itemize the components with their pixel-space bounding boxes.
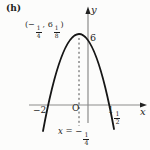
y-intercept-label: 6 <box>90 33 96 43</box>
axis-of-symmetry-label: x = −14 <box>58 127 90 147</box>
vertex-close: ) <box>61 20 64 29</box>
y-axis-arrowhead <box>85 7 90 15</box>
x-intercept-right-label: 112 <box>108 106 121 126</box>
vertex-mid: , 6 <box>43 20 53 29</box>
vertex-fraction-2: 18 <box>54 26 60 40</box>
parabola-figure: (h) (−14, 618) y 6 O −2 112 x x = −14 <box>0 0 150 150</box>
x-intercept-left-label: −2 <box>33 106 46 115</box>
y-axis-label: y <box>91 5 97 15</box>
origin-label: O <box>72 104 79 113</box>
vertex-coordinate-label: (−14, 618) <box>25 21 64 40</box>
figure-label: (h) <box>6 4 21 13</box>
x-intercept-right-int: 1 <box>108 105 113 115</box>
vertex-open: (− <box>25 20 35 29</box>
symmetry-fraction: 14 <box>83 132 89 147</box>
x-intercept-right-fraction: 12 <box>114 111 120 126</box>
symmetry-equals: = − <box>63 126 83 136</box>
vertex-fraction-1: 14 <box>36 26 42 40</box>
x-axis-label: x <box>140 107 146 117</box>
